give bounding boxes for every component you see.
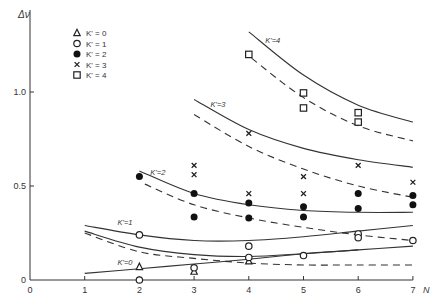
legend-label: K' = 2 (86, 50, 107, 59)
data-point-square-open (355, 109, 361, 115)
data-point-circle-filled (136, 173, 143, 180)
legend-marker-circle-filled (74, 51, 81, 58)
legend-label: K' = 0 (86, 29, 107, 38)
data-point-circle-open (136, 277, 142, 283)
chart: 0123456700.51.0NΔν K'=4K'=3K'=2K'=1K'=0 … (0, 0, 439, 300)
legend-marker-square-open (74, 72, 80, 78)
data-point-cross (301, 174, 306, 179)
data-point-circle-filled (191, 190, 198, 197)
data-point-circle-open (246, 254, 252, 260)
data-point-circle-open (136, 232, 142, 238)
data-point-cross (356, 163, 361, 168)
fit-curves (85, 32, 413, 274)
legend-marker-triangle-open (74, 29, 80, 35)
legend-marker-circle-open (74, 40, 80, 46)
data-point-cross (246, 131, 251, 136)
data-point-square-open (300, 105, 306, 111)
data-point-circle-open (246, 243, 252, 249)
data-point-circle-open (355, 235, 361, 241)
data-point-cross (411, 180, 416, 185)
data-point-square-open (355, 119, 361, 125)
curve-label: K'=2 (150, 168, 166, 177)
data-point-cross (192, 163, 197, 168)
x-tick-label: 6 (356, 285, 361, 295)
curve-label: K'=4 (265, 36, 280, 45)
y-axis-label: Δν (17, 9, 30, 20)
data-point-circle-open (191, 265, 197, 271)
y-tick-label: 0.5 (13, 181, 26, 191)
data-point-circle-filled (300, 214, 307, 221)
curve-3-dashed (194, 115, 413, 198)
curve-4-dashed (252, 58, 413, 141)
data-point-square-open (300, 90, 306, 96)
x-tick-label: 7 (410, 285, 415, 295)
y-tick-label: 1.0 (13, 87, 26, 97)
x-tick-label: 2 (137, 285, 142, 295)
legend-marker-cross (75, 62, 80, 67)
data-point-cross (246, 191, 251, 196)
curve-4-solid (249, 32, 413, 122)
x-tick-label: 3 (192, 285, 197, 295)
data-point-circle-filled (191, 214, 198, 221)
data-point-cross (301, 191, 306, 196)
legend: K' = 0K' = 1K' = 2K' = 3K' = 4 (74, 29, 107, 80)
data-point-circle-filled (245, 199, 252, 206)
data-point-circle-open (300, 252, 306, 258)
curve-1-solid (85, 225, 413, 241)
curve-label: K'=1 (118, 218, 133, 227)
x-tick-label: 5 (301, 285, 306, 295)
data-point-triangle-open (136, 263, 142, 269)
x-tick-label: 1 (82, 285, 87, 295)
curve-2-solid (139, 171, 413, 212)
data-point-circle-filled (355, 205, 362, 212)
data-point-cross (192, 172, 197, 177)
curve-label: K'=3 (211, 100, 227, 109)
data-point-circle-filled (355, 190, 362, 197)
curve-label: K'=0 (118, 258, 134, 267)
data-point-circle-filled (409, 201, 416, 208)
y-tick-label: 0 (21, 275, 26, 285)
x-axis-label: N (423, 285, 430, 295)
data-point-circle-filled (300, 203, 307, 210)
legend-label: K' = 1 (86, 40, 107, 49)
legend-label: K' = 4 (86, 71, 107, 80)
data-point-circle-filled (409, 192, 416, 199)
data-point-square-open (246, 51, 252, 57)
x-tick-label: 0 (27, 285, 32, 295)
data-point-circle-filled (245, 214, 252, 221)
data-point-circle-open (410, 237, 416, 243)
legend-label: K' = 3 (86, 61, 107, 70)
x-tick-label: 4 (246, 285, 251, 295)
